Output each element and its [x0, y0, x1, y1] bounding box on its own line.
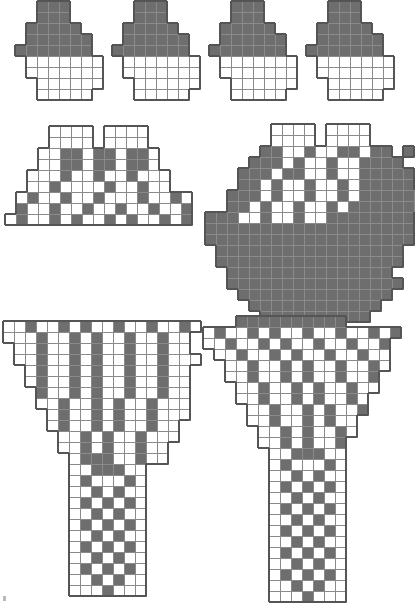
pattern-cell [168, 420, 179, 431]
pattern-cell [350, 89, 361, 100]
pattern-cell [80, 475, 91, 486]
pattern-cell [293, 256, 304, 267]
pattern-cell [179, 387, 190, 398]
pattern-cell [179, 343, 190, 354]
pattern-cell [179, 365, 190, 376]
pattern-cell [124, 464, 135, 475]
pattern-cell [58, 376, 69, 387]
pattern-cell [249, 300, 260, 311]
pattern-cell [357, 382, 368, 393]
pattern-cell [368, 338, 379, 349]
pattern-cell [26, 34, 37, 45]
pattern-cell [146, 343, 157, 354]
pattern-cell [137, 170, 148, 181]
pattern-cell [91, 541, 102, 552]
pattern-cell [134, 45, 145, 56]
pattern-cell [269, 580, 280, 591]
pattern-cell [102, 354, 113, 365]
pattern-cell [82, 126, 93, 137]
pattern-cell [269, 481, 280, 492]
pattern-cell [326, 234, 337, 245]
pattern-cell [58, 365, 69, 376]
pattern-cell [102, 453, 113, 464]
pattern-cell [368, 382, 379, 393]
pattern-cell [92, 78, 103, 89]
pattern-cell [124, 563, 135, 574]
pattern-cell [60, 170, 71, 181]
pattern-cell [36, 332, 47, 343]
pattern-cell [392, 168, 403, 179]
pattern-cell [91, 585, 102, 596]
pattern-cell [326, 267, 337, 278]
pattern-cell [178, 67, 189, 78]
pattern-cell [269, 360, 280, 371]
pattern-cell [271, 190, 282, 201]
pattern-cell [104, 126, 115, 137]
pattern-cell [324, 514, 335, 525]
pattern-cell [126, 214, 137, 225]
pattern-cell [249, 245, 260, 256]
pattern-cell [280, 536, 291, 547]
pattern-cell [370, 168, 381, 179]
pattern-cell [271, 223, 282, 234]
pattern-cell [302, 470, 313, 481]
pattern-cell [247, 360, 258, 371]
pattern-cell [135, 376, 146, 387]
pattern-cell [145, 89, 156, 100]
pattern-cell [335, 492, 346, 503]
pattern-cell [102, 442, 113, 453]
pattern-cell [135, 354, 146, 365]
pattern-cell [123, 23, 134, 34]
pattern-cell [178, 78, 189, 89]
pattern-cell [157, 332, 168, 343]
pattern-cell [293, 245, 304, 256]
pattern-cell [168, 343, 179, 354]
pattern-cell [91, 563, 102, 574]
pattern-cell [47, 343, 58, 354]
pattern-cell [247, 338, 258, 349]
pattern-cell [91, 431, 102, 442]
pattern-cell [304, 245, 315, 256]
pattern-cell [135, 409, 146, 420]
pattern-cell [236, 393, 247, 404]
pattern-cell [135, 475, 146, 486]
pattern-cell [370, 256, 381, 267]
pattern-cell [115, 137, 126, 148]
pattern-cell [93, 148, 104, 159]
pattern-cell [269, 569, 280, 580]
pattern-cell [148, 192, 159, 203]
pattern-cell [264, 78, 275, 89]
pattern-cell [302, 327, 313, 338]
pattern-cell [339, 45, 350, 56]
pattern-cell [348, 212, 359, 223]
pattern-cell [82, 148, 93, 159]
pattern-cell [47, 409, 58, 420]
pattern-cell [124, 552, 135, 563]
pattern-cell [145, 12, 156, 23]
pattern-cell [178, 56, 189, 67]
pattern-cell [280, 349, 291, 360]
pattern-cell [238, 190, 249, 201]
pattern-cell [104, 214, 115, 225]
pattern-cell [328, 1, 339, 12]
pattern-cell [339, 56, 350, 67]
pattern-cell [60, 126, 71, 137]
pattern-cell [258, 349, 269, 360]
pattern-cell [157, 431, 168, 442]
pattern-cell [264, 56, 275, 67]
pattern-cell [291, 426, 302, 437]
pattern-cell [302, 459, 313, 470]
pattern-cell [249, 201, 260, 212]
pattern-cell [302, 371, 313, 382]
pattern-cell [91, 464, 102, 475]
pattern-cell [59, 56, 70, 67]
pattern-cell [264, 89, 275, 100]
pattern-cell [269, 393, 280, 404]
pattern-cell [124, 376, 135, 387]
pattern-cell [258, 426, 269, 437]
pattern-cell [328, 45, 339, 56]
pattern-cell [69, 574, 80, 585]
pattern-cell [113, 541, 124, 552]
pattern-cell [156, 23, 167, 34]
pattern-cell [346, 404, 357, 415]
